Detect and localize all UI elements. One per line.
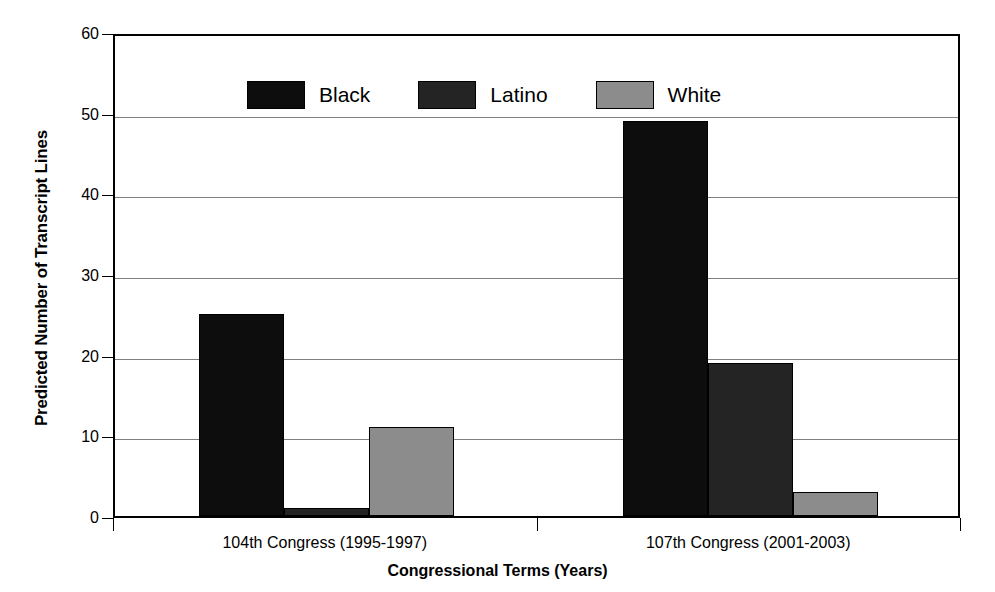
bar-latino-2 [708,363,793,516]
y-tick-label: 20 [81,348,99,366]
bar-white-1 [369,427,454,516]
bar-black-1 [199,314,284,516]
y-tick-mark [102,195,113,196]
y-tick-mark [102,115,113,116]
x-tick-mark [960,518,961,531]
y-tick-label: 0 [90,509,99,527]
y-tick-label: 50 [81,106,99,124]
legend-swatch-white [596,81,654,109]
y-tick-mark [102,34,113,35]
x-tick-mark [537,518,538,531]
legend-label-latino: Latino [490,83,547,107]
y-tick-label: 40 [81,186,99,204]
y-tick-mark [102,276,113,277]
y-tick-mark [102,357,113,358]
plot-area: BlackLatinoWhite [113,34,960,518]
legend-swatch-black [247,81,305,109]
y-tick-label: 10 [81,428,99,446]
legend-item-latino: Latino [418,81,595,109]
x-tick-label: 107th Congress (2001-2003) [646,534,851,552]
y-axis-ticks: 0102030405060 [0,0,113,592]
bar-latino-1 [284,508,369,516]
legend-label-white: White [668,83,722,107]
x-axis-title: Congressional Terms (Years) [0,562,995,580]
bar-chart-figure: Predicted Number of Transcript Lines 010… [0,0,995,592]
legend-label-black: Black [319,83,370,107]
y-tick-label: 60 [81,25,99,43]
x-tick-label: 104th Congress (1995-1997) [222,534,427,552]
y-tick-mark [102,437,113,438]
y-tick-label: 30 [81,267,99,285]
bar-black-2 [623,121,708,516]
bar-white-2 [793,492,878,516]
chart-legend: BlackLatinoWhite [247,81,721,109]
legend-item-white: White [596,81,722,109]
legend-swatch-latino [418,81,476,109]
x-tick-mark [113,518,114,531]
legend-item-black: Black [247,81,418,109]
y-tick-mark [102,518,113,519]
